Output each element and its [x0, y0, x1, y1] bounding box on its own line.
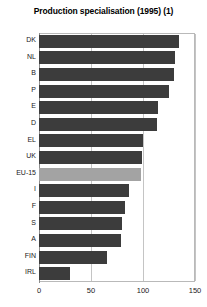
bar-row: FIN	[39, 249, 195, 266]
category-label-p: P	[31, 84, 36, 96]
bar-nl	[39, 51, 175, 64]
category-label-f: F	[32, 200, 36, 212]
bar-fin	[39, 251, 107, 264]
category-label-e: E	[31, 100, 36, 112]
bar-row: NL	[39, 50, 195, 67]
category-label-uk: UK	[26, 150, 36, 162]
bar-row: A	[39, 232, 195, 249]
chart-title: Production specialisation (1995) (1)	[0, 6, 207, 16]
bar-row: E	[39, 99, 195, 116]
bar-row: D	[39, 116, 195, 133]
category-label-irl: IRL	[25, 266, 36, 278]
bar-f	[39, 201, 125, 214]
gridline-150	[195, 34, 196, 281]
category-label-eu-15: EU-15	[16, 167, 36, 179]
bar-row: F	[39, 199, 195, 216]
x-tick-0: 0	[37, 286, 41, 295]
x-tick-50: 50	[87, 286, 95, 295]
bar-b	[39, 68, 174, 81]
bar-d	[39, 118, 157, 131]
bar-row: B	[39, 66, 195, 83]
bar-uk	[39, 151, 142, 164]
bar-row: DK	[39, 33, 195, 50]
category-label-el: EL	[27, 134, 36, 146]
bar-row: EU-15	[39, 166, 195, 183]
category-label-i: I	[34, 183, 36, 195]
category-label-fin: FIN	[25, 250, 36, 262]
bar-a	[39, 234, 121, 247]
category-label-s: S	[31, 217, 36, 229]
category-label-b: B	[31, 67, 36, 79]
bar-irl	[39, 267, 70, 280]
bars-container: DKNLBPEDELUKEU-15IFSAFINIRL	[39, 33, 195, 282]
bar-row: UK	[39, 149, 195, 166]
bar-row: I	[39, 182, 195, 199]
bar-dk	[39, 35, 179, 48]
bar-el	[39, 134, 143, 147]
bar-row: P	[39, 83, 195, 100]
bar-i	[39, 184, 129, 197]
x-tick-100: 100	[137, 286, 150, 295]
bar-eu-15	[39, 168, 141, 181]
bar-row: EL	[39, 133, 195, 150]
x-axis-tick-labels: 050100150	[39, 286, 195, 300]
bar-row: S	[39, 216, 195, 233]
category-label-a: A	[31, 233, 36, 245]
bar-p	[39, 85, 169, 98]
bar-e	[39, 101, 158, 114]
category-label-dk: DK	[26, 34, 36, 46]
bar-s	[39, 217, 122, 230]
production-specialisation-chart: Production specialisation (1995) (1) DKN…	[0, 0, 207, 307]
category-label-d: D	[31, 117, 36, 129]
bar-row: IRL	[39, 265, 195, 282]
x-tick-150: 150	[189, 286, 202, 295]
category-label-nl: NL	[27, 51, 36, 63]
